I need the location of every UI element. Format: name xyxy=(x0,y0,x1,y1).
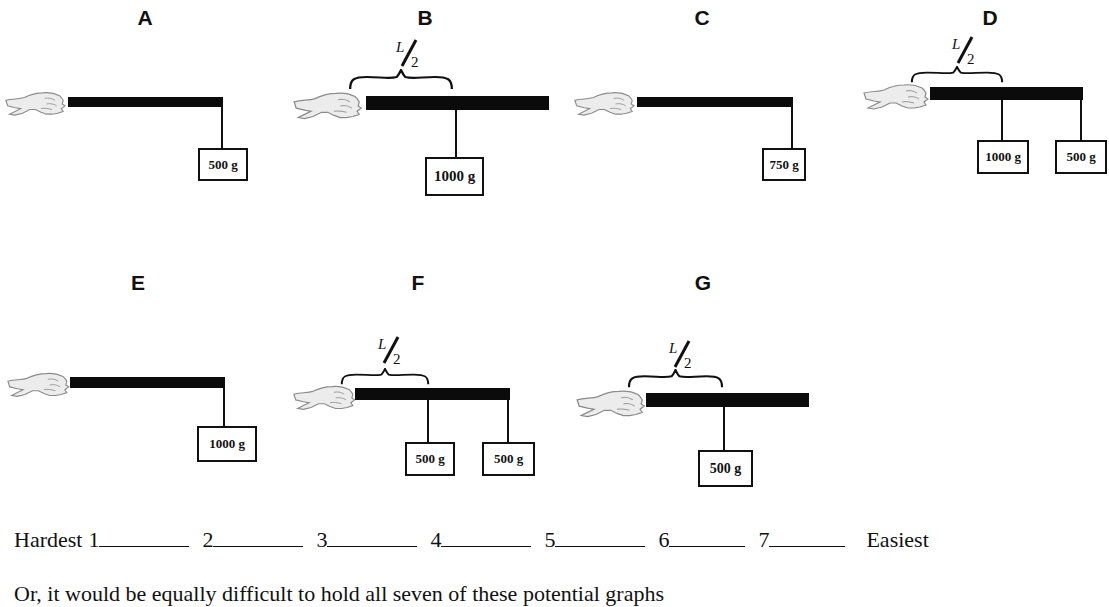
rank-blank[interactable] xyxy=(769,528,845,547)
ranking-end-label: Easiest xyxy=(866,527,928,553)
hanging-string xyxy=(427,400,429,443)
rod-bar xyxy=(637,97,793,107)
rank-slot-5[interactable]: 5 xyxy=(544,527,645,553)
svg-text:L: L xyxy=(395,39,404,55)
rank-blank[interactable] xyxy=(441,528,531,547)
rank-blank[interactable] xyxy=(99,528,189,547)
svg-text:L: L xyxy=(668,340,677,356)
svg-text:L: L xyxy=(377,336,386,352)
rank-slot-6[interactable]: 6 xyxy=(658,527,745,553)
hanging-string xyxy=(507,400,509,443)
rank-slot-7[interactable]: 7 xyxy=(758,527,845,553)
weight-box: 500 g xyxy=(698,450,753,487)
ranking-start-label: Hardest xyxy=(14,527,82,553)
weight-box: 500 g xyxy=(405,442,455,476)
hanging-string xyxy=(791,106,793,149)
svg-text:2: 2 xyxy=(393,351,401,367)
svg-text:L: L xyxy=(951,36,960,52)
instruction-note: Or, it would be equally difficult to hol… xyxy=(14,581,664,607)
half-length-marker-icon: L 2 xyxy=(948,33,982,67)
rank-blank[interactable] xyxy=(327,528,417,547)
panel-label: D xyxy=(982,6,997,30)
panel-label: B xyxy=(417,6,432,30)
panel-label: G xyxy=(695,271,711,295)
hanging-string xyxy=(1080,100,1082,141)
rod-bar xyxy=(366,96,549,110)
rank-blank[interactable] xyxy=(213,528,303,547)
half-length-marker-icon: L 2 xyxy=(374,333,408,367)
panel-label: F xyxy=(412,271,425,295)
weight-box: 1000 g xyxy=(977,140,1029,174)
weight-box: 500 g xyxy=(198,148,248,181)
svg-text:2: 2 xyxy=(411,54,419,70)
panel-label: C xyxy=(694,6,709,30)
hanging-string xyxy=(223,387,225,427)
hand-icon xyxy=(4,88,78,120)
weight-box: 500 g xyxy=(1055,140,1107,174)
rank-slot-3[interactable]: 3 xyxy=(316,527,417,553)
rank-slot-4[interactable]: 4 xyxy=(430,527,531,553)
hanging-string xyxy=(455,110,457,158)
panel-label: A xyxy=(137,6,152,30)
hanging-string xyxy=(221,106,223,149)
rank-blank[interactable] xyxy=(669,528,745,547)
rod-bar xyxy=(930,87,1083,100)
rod-bar xyxy=(355,388,510,400)
rod-bar xyxy=(646,393,809,407)
rank-slot-2[interactable]: 2 xyxy=(202,527,303,553)
rod-bar xyxy=(68,97,223,107)
weight-box: 1000 g xyxy=(425,157,484,196)
rank-blank[interactable] xyxy=(555,528,645,547)
half-length-marker-icon: L 2 xyxy=(392,36,426,70)
half-length-marker-icon: L 2 xyxy=(665,337,699,371)
rod-bar xyxy=(70,377,225,388)
weight-box: 500 g xyxy=(482,442,535,476)
hanging-string xyxy=(723,407,725,451)
ranking-line: Hardest 1 2 3 4 5 6 7 Easiest xyxy=(14,527,929,553)
weight-box: 750 g xyxy=(762,148,806,181)
hanging-string xyxy=(1001,100,1003,141)
hand-icon xyxy=(292,88,376,124)
weight-box: 1000 g xyxy=(197,426,257,462)
hand-icon xyxy=(573,88,647,120)
panel-label: E xyxy=(131,271,145,295)
svg-text:2: 2 xyxy=(967,51,975,67)
rank-slot-1[interactable]: 1 xyxy=(88,527,189,553)
